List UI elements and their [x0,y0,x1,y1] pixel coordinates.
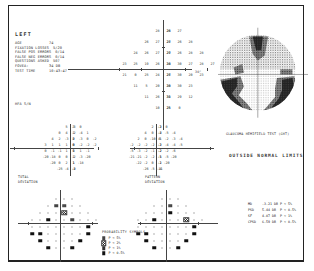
normal-point-dot [88,212,89,213]
threshold-value: 20 [155,84,159,88]
probability-symbol-icon [38,239,42,243]
prob-2-icon [101,240,107,246]
pattern-deviation-value: -4 [171,143,175,147]
probability-symbol-icon [183,217,189,223]
threshold-value: 26 [166,73,170,77]
normal-point-dot [146,219,147,220]
normal-point-dot [178,240,179,241]
axis-tick [210,147,211,150]
normal-point-dot [186,205,187,206]
pattern-deviation-value: -2 [143,161,147,165]
total-deviation-label: TOTAL DEVIATION [18,175,38,185]
pattern-deviation-value: -20 [170,155,176,159]
threshold-value: 12 [188,95,192,99]
vertical-axis [166,190,167,262]
normal-point-dot [56,219,57,220]
threshold-plot: 2828262726272827262824262729272628282325… [70,20,190,130]
axis-30-label: 30° [195,70,202,74]
pattern-deviation-value: 0 [158,137,160,141]
pattern-deviation-value: -21 [135,155,141,159]
normal-point-dot [80,226,81,227]
normal-point-dot [194,219,195,220]
probability-symbol-icon [38,232,42,236]
probability-symbol-icon [78,239,82,243]
normal-point-dot [138,226,139,227]
pattern-deviation-value: -2 [150,143,154,147]
total-deviation-value: -3 [78,137,82,141]
normal-point-dot [178,205,179,206]
patient-info: AGE74 FIXATION LOSSES5/20 FALSE POS ERRO… [15,41,67,73]
axis-tick [185,68,186,71]
threshold-value: 20 [188,73,192,77]
axis-tick [92,222,93,225]
axis-tick [98,147,99,150]
axis-tick [162,91,165,92]
pattern-deviation-value: -3 [171,137,175,141]
normal-point-dot [162,233,163,234]
total-deviation-value: -2 [78,143,82,147]
probability-symbol-icon [168,211,172,215]
normal-point-dot [80,219,81,220]
normal-point-dot [80,212,81,213]
pattern-deviation-value: -3 [136,149,140,153]
normal-point-dot [162,247,163,248]
threshold-value: 26 [177,40,181,44]
pattern-deviation-value: -5 [164,131,168,135]
normal-point-dot [48,205,49,206]
normal-point-dot [40,219,41,220]
pattern-deviation-value: -5 [129,149,133,153]
normal-point-dot [186,233,187,234]
total-deviation-value: -4 [64,167,68,171]
normal-point-dot [56,226,57,227]
probability-symbol-icon [46,246,50,250]
threshold-value: 21 [122,73,126,77]
pattern-deviation-value: 2 [151,125,153,129]
pattern-deviation-value: -21 [128,155,134,159]
axis-tick [141,68,142,71]
threshold-value: 27 [177,29,181,33]
normal-point-dot [56,247,57,248]
normal-point-dot [64,205,65,206]
normal-point-dot [138,219,139,220]
total-deviation-value: -8 [71,167,75,171]
normal-point-dot [154,212,155,213]
pattern-deviation-value: 0 [165,125,167,129]
normal-point-dot [162,205,163,206]
normal-point-dot [170,233,171,234]
normal-point-dot [146,212,147,213]
pattern-deviation-value: -5 [157,155,161,159]
normal-point-dot [64,240,65,241]
axis-tick [198,222,199,225]
normal-point-dot [170,198,171,199]
normal-point-dot [178,219,179,220]
horizontal-axis [18,223,98,224]
normal-point-dot [170,247,171,248]
threshold-value: 28 [199,51,203,55]
prob-5-icon [102,236,106,240]
vertical-axis [163,20,164,130]
probability-symbol-icon [30,232,34,236]
normal-point-dot [162,240,163,241]
normal-point-dot [64,219,65,220]
normal-point-dot [48,226,49,227]
pattern-deviation-value: -11 [156,167,162,171]
pattern-deviation-value: -2 [164,149,168,153]
threshold-value: 0 [134,73,136,77]
index-cpsd: CPSD6.59 DBP < 0.5% [248,219,296,225]
normal-point-dot [64,226,65,227]
threshold-value: 28 [199,62,203,66]
probability-symbol-icon [152,218,156,222]
total-deviation-value: 1 [65,143,67,147]
normal-point-dot [40,226,41,227]
pattern-deviation-value: 0 [151,131,153,135]
normal-point-dot [170,205,171,206]
normal-point-dot [72,198,73,199]
total-deviation-value: 2 [58,137,60,141]
pattern-deviation-value: -4 [164,143,168,147]
threshold-value: 30 [177,73,181,77]
total-deviation-value: 1 [72,161,74,165]
threshold-value: 28 [155,29,159,33]
probability-symbol-icon [46,218,50,222]
threshold-value: 23 [188,84,192,88]
threshold-value: 26 [155,62,159,66]
